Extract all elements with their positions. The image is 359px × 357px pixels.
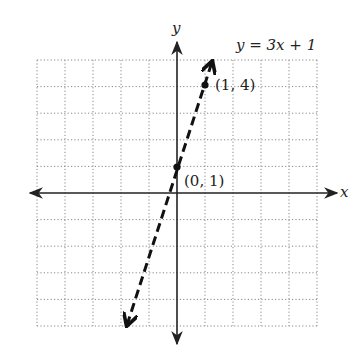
equation-label: y = 3x + 1 xyxy=(235,36,316,54)
point-0-1 xyxy=(173,163,180,170)
point-label-1-4: (1, 4) xyxy=(215,76,255,94)
point-label-0-1: (0, 1) xyxy=(184,172,224,190)
y-axis-label: y xyxy=(171,19,181,37)
x-axis-label: x xyxy=(340,183,349,201)
graph: (0, 1) (1, 4) y = 3x + 1 x y xyxy=(0,0,359,357)
point-1-4 xyxy=(201,81,208,88)
